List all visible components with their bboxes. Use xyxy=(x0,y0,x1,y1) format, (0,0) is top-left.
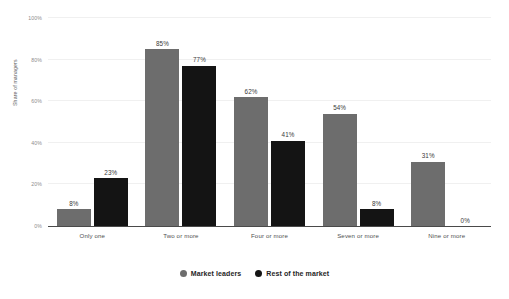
x-axis-tick-label: Two or more xyxy=(163,232,199,239)
y-axis-tick-label: 40% xyxy=(31,140,42,146)
bar-market-leaders[interactable]: 8% xyxy=(57,209,91,226)
bar-value-label: 8% xyxy=(69,200,78,207)
x-axis-tick-label: Four or more xyxy=(251,232,288,239)
bar-rest-of-the-market[interactable]: 23% xyxy=(94,178,128,226)
bar-value-label: 85% xyxy=(156,40,169,47)
bar-market-leaders[interactable]: 85% xyxy=(145,49,179,226)
y-axis-tick-label: 100% xyxy=(28,15,42,21)
legend-label-rest-of-the-market: Rest of the market xyxy=(266,270,329,277)
gridline xyxy=(48,17,491,18)
bar-market-leaders[interactable]: 31% xyxy=(411,162,445,226)
bar-value-label: 23% xyxy=(104,169,117,176)
bar-market-leaders[interactable]: 54% xyxy=(323,114,357,226)
bar-value-label: 31% xyxy=(422,152,435,159)
y-axis-tick-label: 0% xyxy=(34,223,42,229)
bar-value-label: 41% xyxy=(282,131,295,138)
legend-label-market-leaders: Market leaders xyxy=(191,270,241,277)
gridline xyxy=(48,142,491,143)
y-axis-tick-label: 80% xyxy=(31,57,42,63)
x-axis-tick-label: Only one xyxy=(80,232,106,239)
bar-value-label: 8% xyxy=(372,200,381,207)
bar-rest-of-the-market[interactable]: 8% xyxy=(360,209,394,226)
gridline xyxy=(48,100,491,101)
legend-item-rest-of-the-market[interactable]: Rest of the market xyxy=(255,270,329,277)
y-axis-tick-label: 60% xyxy=(31,98,42,104)
circle-marker-black-icon xyxy=(255,270,262,277)
bar-rest-of-the-market[interactable]: 77% xyxy=(182,66,216,226)
bar-value-label: 77% xyxy=(193,56,206,63)
bar-chart: Share of managers 0%20%40%60%80%100%8%23… xyxy=(0,0,509,299)
gridline xyxy=(48,59,491,60)
y-axis-tick-label: 20% xyxy=(31,181,42,187)
y-axis-title: Share of managers xyxy=(12,6,18,106)
plot-area: 0%20%40%60%80%100%8%23%85%77%62%41%54%8%… xyxy=(48,18,491,226)
x-axis-tick-label: Nine or more xyxy=(428,232,465,239)
bar-rest-of-the-market[interactable]: 41% xyxy=(271,141,305,226)
bar-value-label: 62% xyxy=(245,88,258,95)
bar-value-label: 0% xyxy=(461,217,470,224)
x-axis-tick-label: Seven or more xyxy=(337,232,379,239)
chart-legend: Market leaders Rest of the market xyxy=(0,270,509,277)
circle-marker-gray-icon xyxy=(180,270,187,277)
bar-market-leaders[interactable]: 62% xyxy=(234,97,268,226)
legend-item-market-leaders[interactable]: Market leaders xyxy=(180,270,241,277)
bar-value-label: 54% xyxy=(333,104,346,111)
